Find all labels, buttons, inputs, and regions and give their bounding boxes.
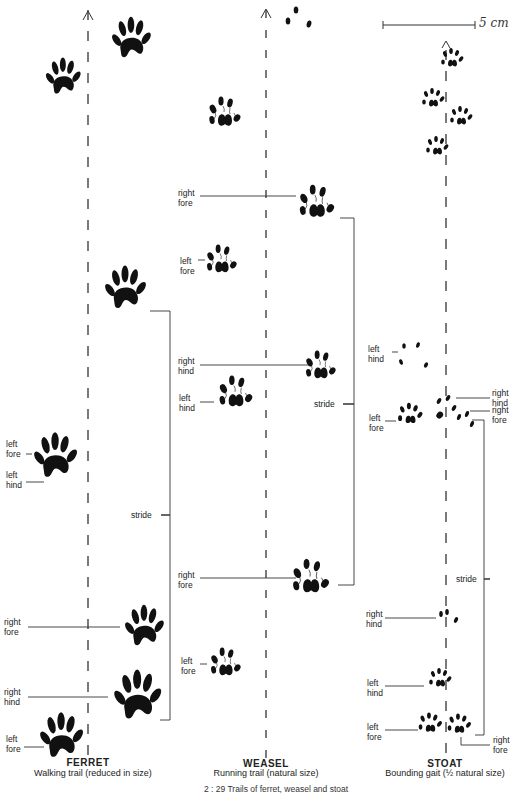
weasel-left-hind-label: left hind [179, 393, 195, 413]
weasel-paw-icon [208, 97, 241, 126]
stoat-direction-arrow-icon [442, 41, 450, 48]
stoat-subtitle: Bounding gait (½ natural size) [370, 768, 511, 778]
stoat-right-hind-label-2: right hind [366, 609, 383, 629]
ferret-title: FERRET [48, 757, 128, 768]
stoat-paw-icon [441, 48, 464, 66]
ferret-left-hind-label: left hind [6, 470, 22, 490]
weasel-paw-icon [206, 244, 238, 272]
stoat-paw-icon [422, 88, 445, 106]
ferret-left-fore-label: left fore [6, 439, 21, 459]
weasel-subtitle: Running trail (natural size) [201, 768, 331, 778]
scale-bar-label: 5 cm [479, 16, 509, 30]
stoat-left-hind-label: left hind [368, 344, 384, 364]
weasel-right-fore-label-2: right fore [178, 570, 195, 590]
stoat-paw-icon [419, 712, 443, 731]
stoat-paw-icon [450, 106, 473, 124]
stoat-left-fore-label: left fore [369, 413, 384, 433]
weasel-left-fore-label: left fore [180, 256, 195, 276]
weasel-paw-icon [305, 350, 337, 378]
weasel-right-fore-label: right fore [178, 188, 195, 208]
weasel-stride-label: stride [314, 399, 335, 409]
ferret-left-fore-label-2: left fore [6, 734, 21, 754]
ferret-right-hind-label: right hind [4, 687, 21, 707]
stoat-left-fore-label-2: left fore [367, 722, 382, 742]
figure-caption: 2 : 29 Trails of ferret, weasel and stoa… [204, 784, 348, 794]
stoat-paw-icon [448, 713, 472, 732]
ferret-paw-icon [110, 17, 153, 57]
weasel-paw-icon [299, 185, 336, 217]
weasel-paw-icon [219, 376, 254, 407]
ferret-paw-icon [123, 605, 166, 645]
stoat-right-fore-label: right fore [492, 405, 509, 425]
ferret-paw-icon [38, 712, 85, 757]
ferret-paw-icon [32, 432, 79, 477]
weasel-left-fore-label-2: left fore [181, 656, 196, 676]
stoat-paw-icon [429, 668, 452, 686]
weasel-right-hind-label: right hind [178, 356, 195, 376]
weasel-paw-icon [292, 559, 330, 593]
ferret-right-fore-label: right fore [4, 617, 21, 637]
ferret-stride-label: stride [131, 510, 152, 520]
ferret-paw-icon [103, 266, 148, 309]
ferret-subtitle: Walking trail (reduced in size) [34, 768, 144, 778]
weasel-paw-icon [210, 647, 242, 675]
stoat-stride-label: stride [456, 574, 477, 584]
ferret-paw-icon [112, 670, 163, 719]
stoat-paw-icon [398, 403, 423, 423]
stoat-right-fore-label-2: right fore [493, 735, 510, 755]
stoat-left-hind-label-2: left hind [367, 678, 383, 698]
ferret-paw-icon [44, 57, 82, 93]
scale-bar [383, 21, 475, 29]
